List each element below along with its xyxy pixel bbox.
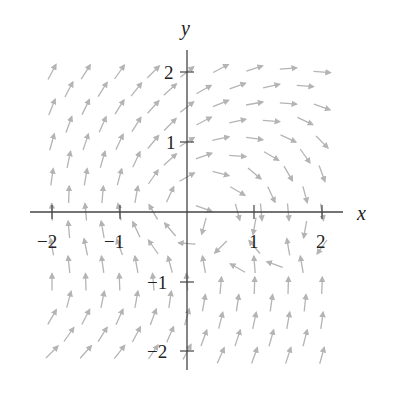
- vector-arrow: [280, 68, 297, 69]
- vector-arrow: [46, 346, 58, 358]
- vector-arrow: [148, 136, 159, 149]
- vector-arrow: [80, 346, 91, 359]
- vector-arrow: [69, 186, 70, 203]
- vector-arrow: [132, 117, 141, 131]
- vector-arrow: [116, 309, 123, 325]
- vector-arrow: [246, 66, 262, 71]
- vector-arrow: [98, 327, 107, 341]
- vector-arrow: [148, 240, 158, 254]
- vector-arrow: [236, 295, 238, 312]
- vector-arrow: [116, 134, 123, 149]
- vector-arrow: [319, 166, 325, 182]
- vector-arrow: [303, 186, 307, 202]
- x-tick-label-m1: −1: [104, 232, 124, 251]
- vector-arrow: [314, 104, 330, 110]
- vector-arrow: [68, 221, 70, 238]
- vector-arrow: [268, 187, 275, 202]
- vector-arrow: [288, 277, 289, 294]
- vector-arrow: [164, 84, 177, 95]
- vector-arrow: [83, 134, 88, 150]
- vector-arrow: [67, 151, 71, 168]
- vector-arrow: [263, 120, 280, 121]
- vector-arrow: [322, 277, 323, 294]
- vector-arrow: [202, 295, 205, 312]
- vector-arrow: [147, 66, 159, 78]
- vector-arrow: [115, 100, 124, 114]
- vector-arrow: [297, 117, 312, 124]
- vector-arrow: [102, 186, 104, 203]
- vector-arrow: [212, 137, 229, 141]
- vector-arrow: [81, 65, 90, 79]
- vector-arrow: [82, 310, 90, 325]
- vector-arrow: [86, 274, 87, 291]
- vector-arrow: [321, 312, 323, 329]
- vector-arrow: [254, 277, 255, 294]
- vector-arrow: [66, 117, 72, 133]
- vector-arrow: [101, 291, 105, 308]
- vector-arrow: [197, 85, 212, 94]
- vector-arrow: [254, 256, 255, 273]
- vector-arrow: [101, 256, 103, 273]
- vector-arrow: [248, 168, 261, 179]
- vector-arrow: [220, 277, 222, 294]
- vector-arrow: [230, 264, 245, 273]
- vector-arrow: [64, 328, 74, 342]
- vector-arrow: [114, 345, 124, 358]
- vector-arrow: [230, 83, 246, 89]
- vector-arrow: [253, 312, 257, 329]
- vector-arrow: [267, 262, 283, 268]
- vector-arrow: [131, 83, 142, 96]
- vector-arrow: [135, 256, 138, 273]
- vector-arrow: [314, 71, 331, 72]
- vector-arrows: [46, 65, 331, 364]
- vector-arrow: [269, 330, 274, 346]
- x-axis-label: x: [357, 203, 366, 223]
- vector-arrow: [48, 310, 57, 325]
- vector-arrow: [164, 119, 176, 131]
- vector-arrow: [168, 256, 172, 272]
- vector-arrow: [229, 155, 246, 156]
- y-tick-label-1: 1: [166, 133, 176, 152]
- vector-arrow: [300, 256, 303, 273]
- vector-arrow: [84, 239, 88, 256]
- vector-arrow: [287, 239, 290, 256]
- vector-arrow: [65, 82, 73, 97]
- vector-arrow: [167, 327, 174, 343]
- vector-arrow: [49, 99, 55, 115]
- vector-arrow: [246, 102, 263, 105]
- x-tick-label-2: 2: [316, 232, 326, 251]
- vector-arrow: [230, 187, 245, 196]
- vector-arrow: [213, 171, 230, 175]
- vector-arrow: [50, 134, 55, 150]
- vector-arrow: [286, 347, 291, 363]
- vector-arrow: [213, 100, 229, 106]
- vector-arrow: [303, 330, 307, 346]
- vector-arrow: [196, 206, 212, 212]
- vector-field-plot: [0, 0, 394, 396]
- vector-arrow: [270, 295, 272, 312]
- vector-arrow: [148, 170, 158, 184]
- vector-arrow: [100, 151, 105, 167]
- vector-arrow: [164, 154, 177, 165]
- vector-arrow: [115, 65, 125, 79]
- vector-arrow: [281, 135, 297, 142]
- vector-arrow: [201, 330, 207, 346]
- vector-arrow: [119, 274, 120, 291]
- vector-arrow: [51, 169, 53, 186]
- vector-arrow: [48, 65, 56, 80]
- vector-arrow: [150, 309, 156, 325]
- vector-arrow: [82, 99, 90, 114]
- vector-arrow: [84, 169, 87, 186]
- vector-arrow: [167, 187, 174, 202]
- vector-arrow: [263, 84, 280, 88]
- vector-arrow: [320, 347, 325, 363]
- vector-arrow: [98, 82, 107, 96]
- vector-arrow: [148, 101, 159, 114]
- vector-arrow: [235, 330, 240, 346]
- vector-arrow: [68, 256, 70, 273]
- vector-arrow: [284, 166, 293, 181]
- vector-arrow: [297, 85, 314, 86]
- vector-arrow: [215, 241, 227, 253]
- vector-arrow: [133, 152, 140, 167]
- axes: [30, 50, 343, 370]
